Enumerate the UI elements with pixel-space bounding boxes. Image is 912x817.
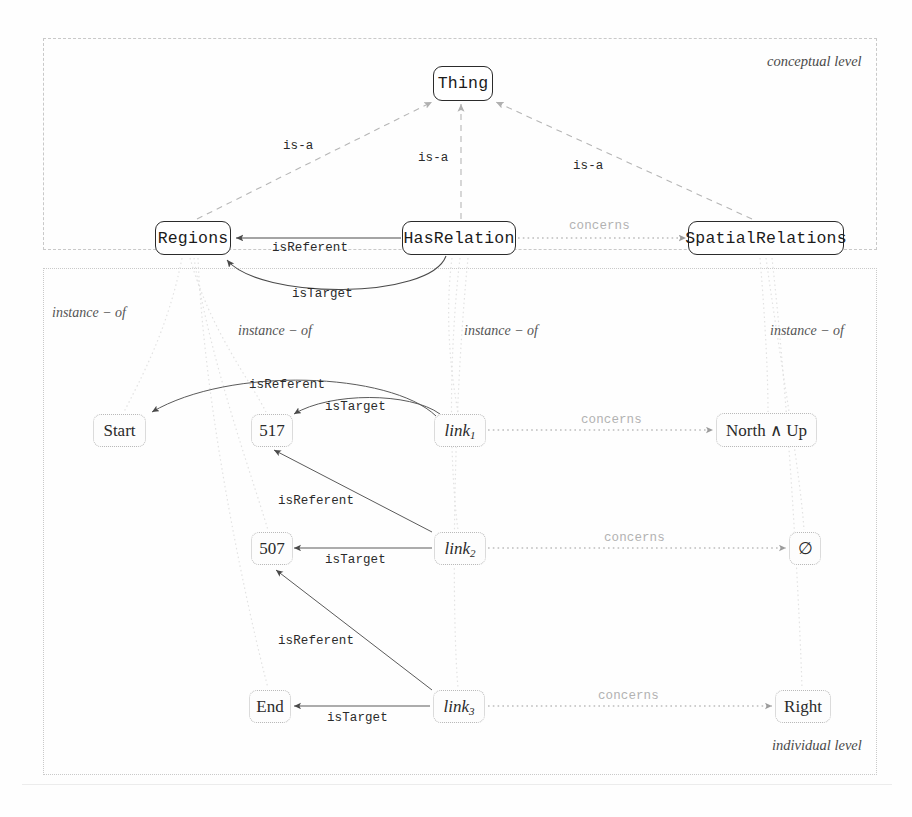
- edge-label-isreferent-3: isReferent: [278, 634, 354, 648]
- instance-of-label-4: instance − of: [770, 323, 844, 339]
- edge-label-is-a-middle: is-a: [418, 151, 448, 165]
- edge-label-istarget-conceptual: isTarget: [292, 287, 353, 301]
- edge-label-istarget-3: isTarget: [327, 711, 388, 725]
- node-end[interactable]: End: [249, 690, 291, 723]
- node-thing[interactable]: Thing: [433, 66, 493, 101]
- edge-label-istarget-1: isTarget: [325, 400, 386, 414]
- edge-instanceof-regions-507: [194, 258, 268, 530]
- node-link3-subscript: 3: [469, 705, 475, 717]
- conceptual-level-label: conceptual level: [767, 53, 862, 70]
- instance-of-label-2: instance − of: [238, 323, 312, 339]
- edge-label-concerns-3: concerns: [598, 689, 659, 703]
- node-link2-subscript: 2: [470, 547, 476, 559]
- node-hasrelation[interactable]: HasRelation: [402, 221, 516, 255]
- node-right[interactable]: Right: [775, 690, 831, 723]
- edge-label-concerns-1: concerns: [581, 413, 642, 427]
- node-link3-base: link: [444, 697, 470, 717]
- instance-of-label-3: instance − of: [464, 323, 538, 339]
- edge-isreferent-link2-517: [274, 450, 432, 532]
- edge-is-a-spatialrelations-thing: [496, 102, 752, 219]
- edge-label-is-a-left: is-a: [283, 139, 313, 153]
- instance-of-label-1: instance − of: [52, 305, 126, 321]
- edge-isreferent-link3-507: [276, 570, 432, 690]
- node-regions[interactable]: Regions: [155, 221, 231, 255]
- edge-instanceof-regions-start: [124, 258, 182, 412]
- node-link1[interactable]: link1: [434, 414, 486, 447]
- edge-label-isreferent-2: isReferent: [278, 494, 354, 508]
- edge-istarget-conceptual: [227, 256, 446, 290]
- node-link2[interactable]: link2: [434, 532, 486, 565]
- edge-instanceof-spatialrelations-northup: [760, 258, 768, 412]
- scan-artifact-line: [22, 784, 892, 785]
- edge-label-concerns-2: concerns: [604, 531, 665, 545]
- node-507[interactable]: 507: [251, 532, 293, 565]
- edge-label-isreferent-conceptual: isReferent: [272, 241, 348, 255]
- individual-level-label: individual level: [772, 737, 862, 754]
- diagram-canvas: Thing Regions HasRelation SpatialRelatio…: [0, 0, 912, 817]
- node-link2-base: link: [445, 539, 471, 559]
- edge-label-istarget-2: isTarget: [325, 553, 386, 567]
- node-link3[interactable]: link3: [433, 690, 485, 723]
- node-empty-set[interactable]: ∅: [789, 532, 821, 565]
- node-link1-base: link: [445, 421, 471, 441]
- edge-instanceof-spatialrelations-emptyset: [766, 258, 804, 530]
- node-north-and-up[interactable]: North ∧ Up: [716, 413, 817, 447]
- edge-label-isreferent-1: isReferent: [249, 378, 325, 392]
- node-link1-subscript: 1: [470, 429, 476, 441]
- node-spatialrelations[interactable]: SpatialRelations: [688, 221, 844, 255]
- edge-label-is-a-right: is-a: [573, 159, 603, 173]
- edge-label-concerns-conceptual: concerns: [569, 219, 630, 233]
- node-517[interactable]: 517: [251, 414, 293, 447]
- edge-is-a-regions-thing: [197, 102, 432, 219]
- node-start[interactable]: Start: [93, 414, 146, 447]
